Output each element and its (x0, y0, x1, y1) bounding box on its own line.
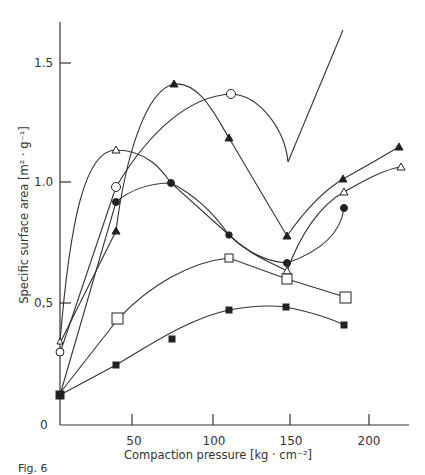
x-tick-label-200: 200 (358, 434, 381, 448)
axes (60, 22, 409, 425)
curve-filled-circle (60, 183, 344, 395)
marker-filled-square (226, 307, 232, 313)
curve-filled-square (60, 306, 344, 395)
x-tick-label-50: 50 (126, 434, 141, 448)
marker-open-circle (227, 90, 236, 99)
figure-caption: Fig. 6 (18, 462, 48, 475)
marker-filled-circle (113, 199, 120, 206)
marker-filled-square (56, 391, 64, 399)
marker-open-circle (56, 348, 64, 356)
marker-filled-circle (168, 180, 175, 187)
marker-filled-circle (226, 232, 232, 238)
curve-open-circle (60, 30, 343, 353)
marker-filled-circle (341, 205, 348, 212)
x-tick-label-150: 150 (280, 434, 303, 448)
marker-filled-triangle (225, 134, 233, 141)
y-tick-label-1.0: 1.0 (34, 175, 53, 189)
marker-filled-triangle (283, 232, 291, 239)
curve-filled-triangle (60, 84, 399, 343)
marker-open-triangle (340, 188, 348, 195)
marker-open-circle (112, 183, 121, 192)
y-tick-label-1.5: 1.5 (34, 56, 53, 70)
curves (60, 30, 401, 395)
marker-open-triangle (397, 163, 405, 170)
markers (56, 80, 405, 399)
marker-filled-square (341, 322, 347, 328)
marker-filled-triangle (339, 175, 347, 182)
y-axis-title: Specific surface area [m² · g⁻¹] (17, 126, 31, 304)
marker-filled-triangle (112, 227, 120, 234)
marker-filled-triangle (395, 143, 403, 150)
marker-open-triangle (112, 146, 120, 153)
curve-open-square (60, 258, 345, 393)
x-axis-title: Compaction pressure [kg · cm⁻²] (124, 448, 312, 462)
marker-open-square (225, 254, 233, 262)
marker-open-square (340, 292, 351, 303)
y-tick-label-0.5: 0,5 (34, 296, 53, 310)
x-tick-label-100: 100 (203, 434, 226, 448)
marker-filled-square (113, 362, 119, 368)
marker-filled-square (283, 304, 289, 310)
marker-open-square (112, 313, 123, 324)
marker-open-square (282, 274, 292, 284)
marker-filled-circle (284, 260, 291, 267)
marker-open-triangle (283, 267, 291, 274)
y-tick-label-0: 0 (40, 418, 48, 432)
marker-filled-square (169, 336, 175, 342)
